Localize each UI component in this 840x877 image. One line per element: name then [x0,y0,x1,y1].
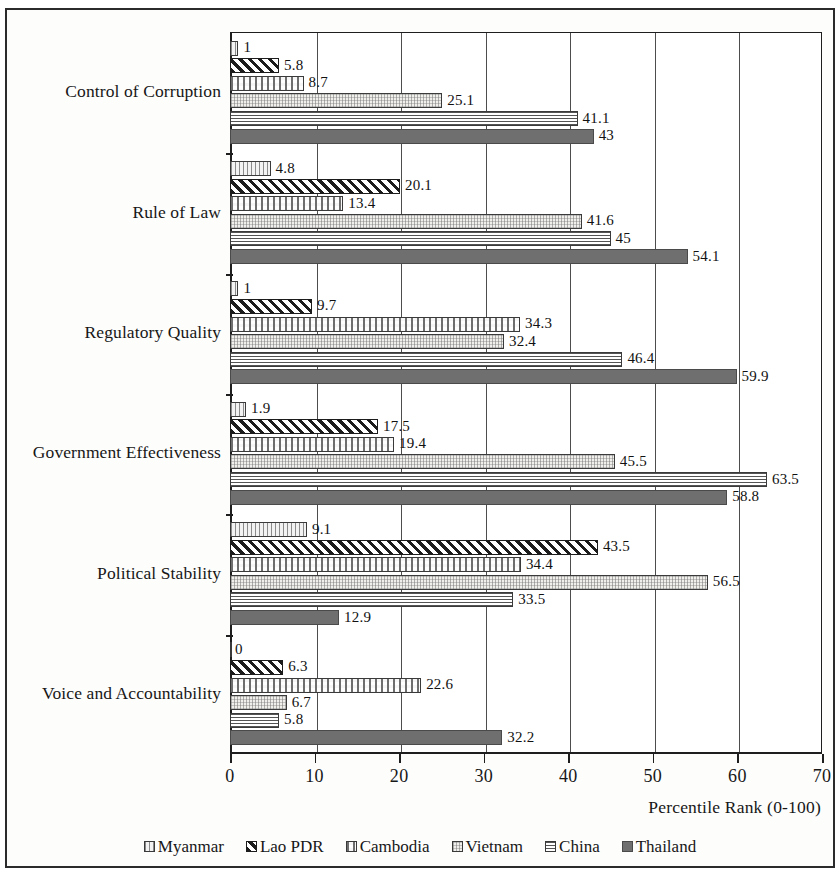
bar-lao-pdr [230,179,400,194]
category-tick [226,514,233,516]
category-tick [226,394,233,396]
bar-china [230,713,279,728]
x-axis-tick-20 [399,754,401,763]
bar-row: 32.4 [230,334,833,349]
legend-item-cambodia[interactable]: Cambodia [346,838,430,855]
x-axis-tick-label: 60 [728,766,747,787]
bar-value-label: 5.8 [284,711,303,728]
legend-swatch-icon [622,841,633,852]
bar-value-label: 1 [243,39,251,56]
bar-lao-pdr [230,299,312,314]
x-axis-tick-label: 50 [644,766,663,787]
bar-value-label: 56.5 [713,573,740,590]
bar-value-label: 63.5 [772,471,799,488]
bar-value-label: 20.1 [405,177,432,194]
bar-row: 45 [230,231,833,246]
bar-myanmar [230,281,238,296]
bar-row: 41.1 [230,111,833,126]
bar-lao-pdr [230,58,279,73]
bar-value-label: 41.6 [587,212,614,229]
legend-label: Vietnam [466,838,524,855]
bar-value-label: 34.4 [526,556,553,573]
x-axis-tick-label: 20 [390,766,409,787]
legend-item-lao-pdr[interactable]: Lao PDR [246,838,324,855]
bar-row: 34.3 [230,317,833,332]
bar-row: 1.9 [230,402,833,417]
bar-row: 19.4 [230,437,833,452]
bar-row: 22.6 [230,678,833,693]
legend-label: China [559,838,600,855]
bar-row: 54.1 [230,249,833,264]
bar-value-label: 46.4 [627,350,654,367]
bar-row: 5.8 [230,713,833,728]
bar-value-label: 1 [243,280,251,297]
category-label: Political Stability [97,563,221,584]
bar-row: 32.2 [230,730,833,745]
bar-row: 25.1 [230,93,833,108]
bar-value-label: 34.3 [525,315,552,332]
bar-value-label: 12.9 [344,609,371,626]
bar-vietnam [230,93,442,108]
legend-item-thailand[interactable]: Thailand [622,838,696,855]
bar-value-label: 1.9 [251,400,270,417]
bar-value-label: 41.1 [583,110,610,127]
bar-value-label: 32.2 [507,729,534,746]
bar-row: 9.1 [230,522,833,537]
bar-vietnam [230,454,615,469]
bar-row: 12.9 [230,610,833,625]
bar-row: 43 [230,129,833,144]
bar-row: 34.4 [230,557,833,572]
bar-value-label: 8.7 [309,75,328,92]
bar-china [230,231,611,246]
bar-row: 6.7 [230,695,833,710]
x-axis-tick-label: 40 [559,766,578,787]
legend-item-myanmar[interactable]: Myanmar [144,838,224,855]
figure-frame: Control of CorruptionRule of LawRegulato… [5,8,835,868]
bar-value-label: 32.4 [509,333,536,350]
legend-swatch-icon [346,841,357,852]
legend-item-vietnam[interactable]: Vietnam [452,838,524,855]
x-axis-tick-0 [230,754,232,763]
bar-row: 5.8 [230,58,833,73]
bar-vietnam [230,334,504,349]
legend-label: Lao PDR [260,838,324,855]
bar-value-label: 9.7 [317,298,336,315]
legend-item-china[interactable]: China [545,838,600,855]
bar-row: 13.4 [230,196,833,211]
bar-value-label: 22.6 [426,676,453,693]
bar-value-label: 19.4 [399,436,426,453]
x-axis-tick-label: 10 [305,766,324,787]
bar-value-label: 25.1 [447,92,474,109]
bar-value-label: 33.5 [518,591,545,608]
bar-row: 56.5 [230,575,833,590]
bar-china [230,472,767,487]
bar-value-label: 17.5 [383,418,410,435]
bar-thailand [230,249,688,264]
category-tick [226,274,233,276]
bar-myanmar [230,41,238,56]
bar-vietnam [230,214,582,229]
bar-myanmar [230,161,271,176]
x-axis-title: Percentile Rank (0-100) [648,797,821,818]
bar-row: 63.5 [230,472,833,487]
x-axis-tick-10 [315,754,317,763]
bar-value-label: 43.5 [603,538,630,555]
x-axis-tick-40 [568,754,570,763]
bar-row: 1 [230,41,833,56]
bar-myanmar [230,522,307,537]
bar-china [230,111,578,126]
bar-thailand [230,730,502,745]
category-label: Rule of Law [132,202,221,223]
bar-row: 43.5 [230,540,833,555]
bar-thailand [230,610,339,625]
x-axis-tick-50 [653,754,655,763]
bar-value-label: 45.5 [620,453,647,470]
x-axis-tick-label: 70 [813,766,832,787]
legend-swatch-icon [246,841,257,852]
x-axis-tick-60 [737,754,739,763]
bar-row: 0 [230,642,833,657]
bar-value-label: 43 [599,127,614,144]
legend-swatch-icon [144,841,155,852]
bar-value-label: 5.8 [284,57,303,74]
bar-row: 33.5 [230,592,833,607]
